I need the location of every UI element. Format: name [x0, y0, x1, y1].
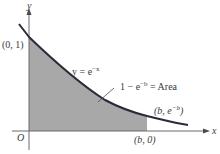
area-under-exponential-diagram: y x O (0, 1) y = e−x 1 − e−b = Area (b, …: [0, 0, 220, 154]
curve-equation-label: y = e−x: [72, 65, 100, 77]
point-b-axis-label: (b, 0): [134, 134, 156, 146]
point-b-curve-label: (b, e−b): [154, 104, 184, 117]
x-axis-label: x: [211, 125, 217, 136]
x-axis-arrow-icon: [203, 129, 210, 134]
origin-label: O: [17, 132, 24, 143]
y-axis-label: y: [26, 0, 32, 11]
area-label: 1 − e−b = Area: [120, 80, 178, 92]
y-intercept-label: (0, 1): [2, 39, 24, 51]
